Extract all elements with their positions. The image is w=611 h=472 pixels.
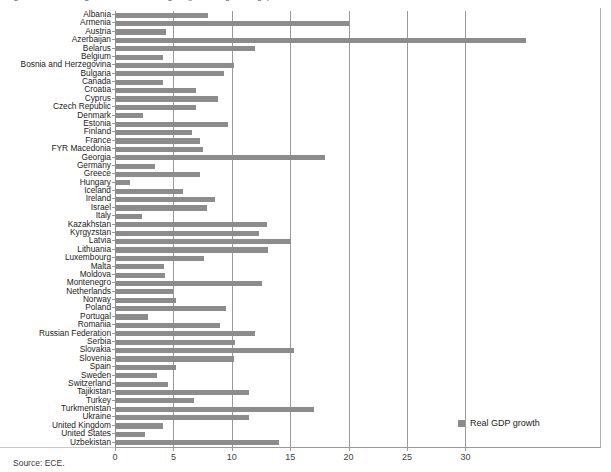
x-tick-label-30: 30 [445,452,485,462]
bar-denmark [115,113,143,118]
bar-kazakhstan [115,222,267,227]
bar-row: Israel [0,204,611,212]
x-tick-15 [290,447,291,451]
bar-tajikistan [115,390,249,395]
x-axis-line [115,447,601,448]
bar-norway [115,298,176,303]
bar-ukraine [115,415,249,420]
bar-azerbaijan [115,38,526,43]
figure-container: Figure 1 Real GDP growth in the ECE regi… [0,0,611,472]
bar-poland [115,306,226,311]
bar-luxembourg [115,256,204,261]
bar-bulgaria [115,71,224,76]
bar-cyprus [115,96,218,101]
bar-sweden [115,373,157,378]
bar-slovakia [115,348,294,353]
bar-romania [115,323,220,328]
x-tick-0 [115,447,116,451]
x-tick-25 [407,447,408,451]
bar-turkmenistan [115,407,314,412]
bar-malta [115,264,164,269]
legend: Real GDP growth [458,415,540,431]
bar-austria [115,29,166,34]
bar-russian-federation [115,331,255,336]
bar-uzbekistan [115,440,279,445]
bar-bosnia-and-herzegovina [115,63,234,68]
bar-row: Uzbekistan [0,439,611,447]
bar-croatia [115,88,196,93]
x-tick-label-5: 5 [153,452,193,462]
x-tick-5 [173,447,174,451]
figure-title: Figure 1 Real GDP growth in the ECE regi… [0,0,611,5]
x-tick-20 [349,447,350,451]
x-tick-label-20: 20 [329,452,369,462]
bar-georgia [115,155,325,160]
bar-belgium [115,55,163,60]
bar-germany [115,164,155,169]
bar-israel [115,205,207,210]
bar-united-states [115,432,145,437]
bar-united-kingdom [115,423,163,428]
bar-greece [115,172,200,177]
bar-albania [115,13,208,18]
bar-fyr-macedonia [115,147,203,152]
x-tick-label-0: 0 [95,452,135,462]
bar-france [115,138,200,143]
bar-spain [115,365,176,370]
legend-label-real-gdp-growth: Real GDP growth [470,418,540,428]
source-note: Source: ECE. [13,458,65,468]
x-tick-10 [232,447,233,451]
bar-lithuania [115,247,268,252]
bar-turkey [115,398,194,403]
legend-swatch-real-gdp-growth [458,420,465,427]
x-tick-30 [465,447,466,451]
bar-italy [115,214,142,219]
bar-kyrgyzstan [115,231,259,236]
bar-latvia [115,239,291,244]
bar-serbia [115,340,235,345]
bar-estonia [115,122,228,127]
bar-iceland [115,189,183,194]
bar-ireland [115,197,215,202]
bar-netherlands [115,289,173,294]
bar-hungary [115,180,130,185]
bar-slovenia [115,356,234,361]
bars-group: AlbaniaArmeniaAustriaAzerbaijanBelarusBe… [0,11,611,447]
x-tick-label-25: 25 [387,452,427,462]
x-tick-label-15: 15 [270,452,310,462]
bar-czech-republic [115,105,196,110]
bar-switzerland [115,382,168,387]
bar-finland [115,130,192,135]
bar-belarus [115,46,255,51]
bar-canada [115,80,163,85]
bar-montenegro [115,281,262,286]
x-tick-label-10: 10 [212,452,252,462]
bar-moldova [115,273,165,278]
category-label-uzbekistan: Uzbekistan [70,438,111,447]
bar-armenia [115,21,349,26]
bar-portugal [115,314,148,319]
